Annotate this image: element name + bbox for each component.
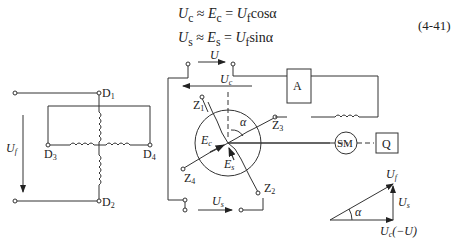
label-z2: Z2	[264, 181, 275, 196]
resolver-diagram: D1 D2 D3 D4 Uf Z1 Z2 Z3 Z4 Ec Es α U Uc …	[0, 0, 472, 240]
label-ec: Ec	[200, 133, 212, 148]
label-d3: D3	[44, 147, 57, 162]
label-uc-wire: Uc	[220, 72, 233, 87]
phasor-uc: Uc(−U)	[380, 224, 417, 239]
label-d2: D2	[102, 195, 115, 210]
servo-motor-block: SM	[337, 137, 353, 149]
label-alpha-rotor: α	[240, 115, 247, 129]
amplifier-block: A	[293, 79, 302, 93]
label-d1: D1	[102, 86, 115, 101]
phasor-uf: Uf	[386, 167, 399, 182]
label-d4: D4	[143, 147, 156, 162]
load-block: Q	[382, 137, 391, 151]
phasor-alpha: α	[355, 205, 362, 219]
label-z3: Z3	[272, 118, 283, 133]
label-us-wire: Us	[212, 194, 224, 209]
label-z4: Z4	[184, 171, 195, 186]
label-u: U	[210, 48, 220, 62]
phasor-triangle	[330, 184, 393, 220]
label-es: Es	[223, 157, 234, 172]
phasor-us: Us	[398, 195, 410, 210]
label-uf: Uf	[6, 141, 19, 156]
stator-winding	[13, 91, 152, 203]
